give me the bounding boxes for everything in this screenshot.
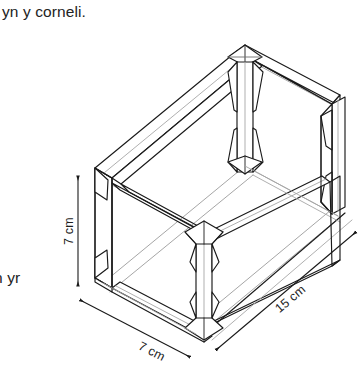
box-frame-figure: 7 cm 7 cm 15 cm [0,0,360,382]
dimension-length: 15 cm [216,232,356,350]
rail-bottom-left [95,278,196,334]
post-center-back [228,62,263,172]
frame-geometry [95,45,352,342]
rail-middle-right [204,176,330,241]
page-root: yn y corneli. n yr [0,0,360,382]
dimension-height-label: 7 cm [62,217,76,245]
post-center-front [185,221,223,340]
dimension-height: 7 cm [62,176,78,286]
